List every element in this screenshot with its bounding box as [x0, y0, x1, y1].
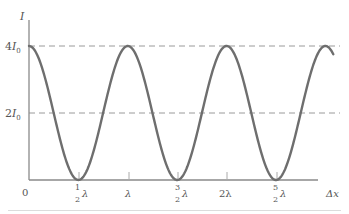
y-axis-label: I — [19, 10, 25, 23]
x-tick-label-2-lambda: 2λ — [219, 188, 232, 199]
x-tick-label-five-half-lambda: 5 2 λ — [273, 183, 286, 204]
x-tick-label-lambda: λ — [124, 188, 131, 199]
svg-text:λ: λ — [81, 188, 88, 199]
svg-text:1: 1 — [75, 183, 80, 192]
y-tick-label-2I0: 2I0 — [5, 107, 21, 122]
interference-intensity-chart: I 4I0 2I0 0 1 2 λ λ 3 2 λ 2λ 5 2 λ Δx — [0, 0, 349, 214]
svg-text:λ: λ — [279, 188, 286, 199]
svg-text:2: 2 — [175, 195, 180, 204]
x-tick-label-0: 0 — [22, 187, 28, 198]
svg-text:3: 3 — [175, 183, 180, 192]
svg-text:2: 2 — [273, 195, 278, 204]
x-tick-label-half-lambda: 1 2 λ — [75, 183, 88, 204]
y-tick-label-4I0: 4I0 — [5, 40, 21, 55]
svg-text:5: 5 — [273, 183, 278, 192]
bottom-divider — [8, 210, 341, 211]
x-axis-label: Δx — [325, 188, 339, 199]
svg-text:λ: λ — [181, 188, 188, 199]
x-tick-label-three-half-lambda: 3 2 λ — [175, 183, 188, 204]
svg-text:2: 2 — [75, 195, 80, 204]
